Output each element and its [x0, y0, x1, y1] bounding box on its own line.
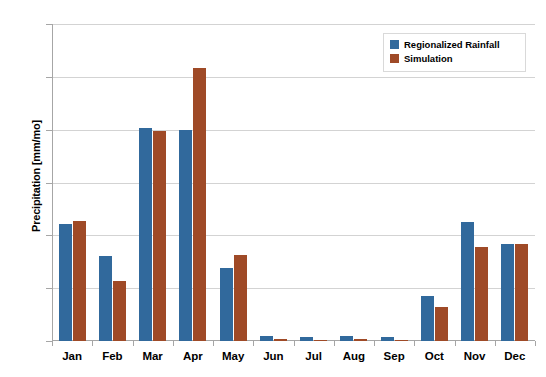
- bar: [59, 224, 72, 341]
- bar: [220, 268, 233, 341]
- bar-group: [52, 24, 92, 341]
- y-axis-title: Precipitation [mm/mo]: [30, 76, 42, 276]
- bar: [354, 339, 367, 341]
- bar: [421, 296, 434, 341]
- bar-group: [213, 24, 253, 341]
- chart-legend: Regionalized Rainfall Simulation: [383, 33, 526, 72]
- bar: [395, 340, 408, 341]
- legend-label-series-0: Regionalized Rainfall: [404, 39, 500, 50]
- bar-group: [294, 24, 334, 341]
- x-tick-mark: [294, 341, 295, 346]
- x-tick-mark: [535, 341, 536, 346]
- x-tick-mark: [133, 341, 134, 346]
- bar-group: [133, 24, 173, 341]
- bar: [340, 336, 353, 341]
- x-tick-label: Dec: [485, 350, 545, 362]
- bar: [193, 68, 206, 341]
- x-tick-mark: [253, 341, 254, 346]
- bar-group: [253, 24, 293, 341]
- bar: [179, 130, 192, 341]
- bar: [314, 340, 327, 341]
- legend-swatch-icon-series-0: [390, 40, 399, 49]
- x-tick-mark: [455, 341, 456, 346]
- bar: [139, 128, 152, 341]
- bar: [475, 247, 488, 341]
- x-tick-mark: [173, 341, 174, 346]
- x-tick-mark: [374, 341, 375, 346]
- bar: [515, 244, 528, 341]
- bar-group: [334, 24, 374, 341]
- x-tick-mark: [334, 341, 335, 346]
- bar: [260, 336, 273, 341]
- bar: [381, 337, 394, 341]
- legend-item-simulation: Simulation: [390, 52, 520, 65]
- bar: [435, 307, 448, 341]
- bar: [274, 339, 287, 341]
- x-tick-mark: [495, 341, 496, 346]
- bar: [461, 222, 474, 341]
- x-tick-mark: [92, 341, 93, 346]
- bar: [501, 244, 514, 341]
- bar: [300, 337, 313, 341]
- bar: [234, 255, 247, 341]
- bar: [153, 131, 166, 341]
- legend-swatch-icon-series-1: [390, 54, 399, 63]
- precipitation-bar-chart: Precipitation [mm/mo] 051015202530 JanFe…: [0, 0, 546, 377]
- x-tick-mark: [213, 341, 214, 346]
- bar: [99, 256, 112, 341]
- x-tick-mark: [414, 341, 415, 346]
- x-tick-mark: [52, 341, 53, 346]
- legend-label-series-1: Simulation: [404, 53, 453, 64]
- bar-group: [173, 24, 213, 341]
- bar: [113, 281, 126, 341]
- legend-item-regionalized-rainfall: Regionalized Rainfall: [390, 38, 520, 51]
- bar-group: [92, 24, 132, 341]
- bar: [73, 221, 86, 341]
